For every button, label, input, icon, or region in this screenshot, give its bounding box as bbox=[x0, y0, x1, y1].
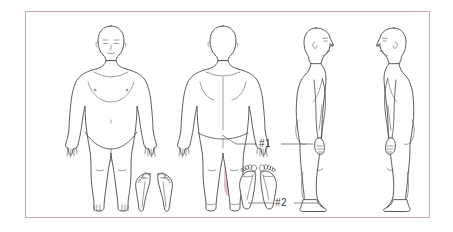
chart-frame: #1 #2 bbox=[25, 11, 430, 218]
pain-label-2: #2 bbox=[275, 197, 287, 208]
pain-label-1: #1 bbox=[259, 138, 271, 149]
annotation-leader-lines bbox=[26, 12, 431, 219]
pain-1-leader-left bbox=[222, 135, 257, 144]
body-pain-map-chart: #1 #2 bbox=[0, 0, 453, 232]
